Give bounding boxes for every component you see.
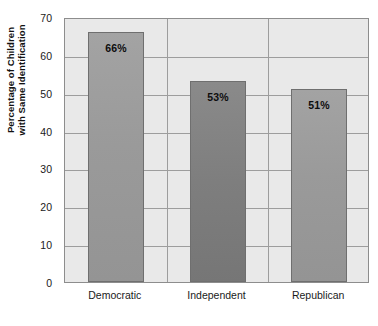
gridline-vertical xyxy=(167,19,168,282)
y-axis-tick-label: 50 xyxy=(12,88,52,100)
bar-democratic: 66% xyxy=(88,32,144,282)
bar-independent: 53% xyxy=(190,81,246,282)
y-axis-tick-label: 0 xyxy=(12,277,52,289)
gridline-vertical xyxy=(268,19,269,282)
y-axis-tick-label: 40 xyxy=(12,126,52,138)
bar-republican: 51% xyxy=(291,89,347,282)
x-axis-tick-label: Democratic xyxy=(88,289,141,301)
x-axis-tick-label: Republican xyxy=(292,289,345,301)
bar-value-label: 51% xyxy=(292,99,346,111)
y-axis-tick-label: 60 xyxy=(12,50,52,62)
y-axis-tick-label: 30 xyxy=(12,163,52,175)
x-axis-tick-label: Independent xyxy=(187,289,245,301)
x-axis-tick-labels: DemocraticIndependentRepublican xyxy=(64,289,369,309)
bar-chart-figure: Percentage of Children with Same Identif… xyxy=(0,0,378,326)
y-axis-tick-label: 20 xyxy=(12,201,52,213)
bar-value-label: 53% xyxy=(191,91,245,103)
plot-area: 66%53%51% xyxy=(64,18,369,283)
y-axis-tick-labels: 010203040506070 xyxy=(0,0,60,326)
y-axis-tick-label: 10 xyxy=(12,239,52,251)
y-axis-tick-label: 70 xyxy=(12,12,52,24)
bar-value-label: 66% xyxy=(89,42,143,54)
